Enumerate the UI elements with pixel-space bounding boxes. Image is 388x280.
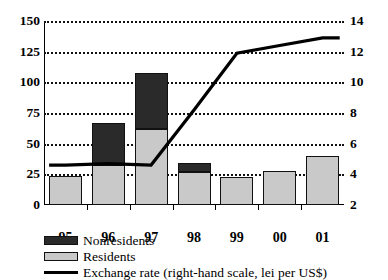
- legend-label-residents: Residents: [83, 250, 136, 264]
- left-axis-tick-100: 100: [6, 76, 40, 90]
- exchange-rate-line: [44, 21, 344, 205]
- legend-swatch-exchange-rate-icon: [44, 268, 78, 277]
- right-axis-tick-10: 10: [350, 76, 382, 90]
- left-axis-tick-125: 125: [6, 45, 40, 59]
- right-axis-tick-8: 8: [350, 106, 382, 120]
- legend-swatch-residents-icon: [44, 252, 78, 261]
- legend-label-nonresidents: Nonresidents: [83, 234, 154, 248]
- chart-legend: Nonresidents Residents Exchange rate (ri…: [44, 233, 374, 280]
- left-axis-tick-0: 0: [6, 198, 40, 212]
- x-tick-mark: [87, 205, 88, 210]
- legend-item-exchange-rate: Exchange rate (right-hand scale, lei per…: [44, 265, 374, 280]
- right-axis-tick-4: 4: [350, 168, 382, 182]
- line-series-group: [44, 21, 344, 205]
- x-tick-mark: [173, 205, 174, 210]
- legend-swatch-nonresidents-icon: [44, 236, 78, 245]
- legend-item-residents: Residents: [44, 249, 374, 264]
- left-axis-tick-25: 25: [6, 168, 40, 182]
- legend-item-nonresidents: Nonresidents: [44, 233, 374, 248]
- x-tick-mark: [258, 205, 259, 210]
- right-axis-tick-12: 12: [350, 45, 382, 59]
- plot-area: 95969798990001: [44, 21, 344, 205]
- right-axis-tick-2: 2: [350, 198, 382, 212]
- left-axis-tick-50: 50: [6, 137, 40, 151]
- right-axis-tick-6: 6: [350, 137, 382, 151]
- left-axis-tick-150: 150: [6, 14, 40, 28]
- x-tick-mark: [130, 205, 131, 210]
- x-tick-mark: [215, 205, 216, 210]
- right-axis-tick-14: 14: [350, 14, 382, 28]
- x-tick-mark: [301, 205, 302, 210]
- legend-label-exchange-rate: Exchange rate (right-hand scale, lei per…: [83, 266, 327, 280]
- chart-root: 0255075100125150 2468101214 959697989900…: [0, 0, 388, 280]
- left-axis-tick-75: 75: [6, 106, 40, 120]
